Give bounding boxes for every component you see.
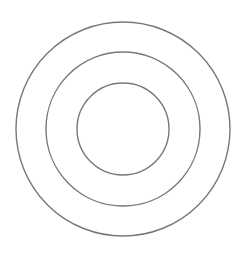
outer-circle xyxy=(16,22,230,236)
middle-circle xyxy=(46,52,200,206)
inner-circle xyxy=(77,83,169,175)
concentric-circles-diagram xyxy=(0,0,247,257)
rings-group xyxy=(16,22,230,236)
